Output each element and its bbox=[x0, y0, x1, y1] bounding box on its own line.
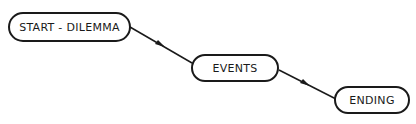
node-ending: ENDING bbox=[334, 86, 410, 114]
node-start-dilemma: START - DILEMMA bbox=[8, 12, 131, 42]
arrowhead-icon bbox=[155, 40, 165, 47]
node-events: EVENTS bbox=[191, 54, 279, 82]
node-label: EVENTS bbox=[212, 62, 257, 75]
arrowhead-icon bbox=[300, 79, 310, 86]
node-label: START - DILEMMA bbox=[19, 21, 120, 34]
node-label: ENDING bbox=[349, 94, 394, 107]
